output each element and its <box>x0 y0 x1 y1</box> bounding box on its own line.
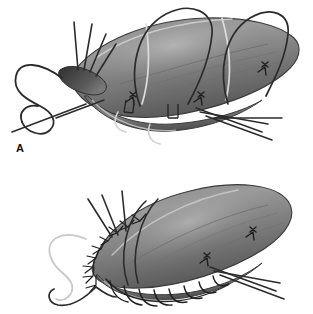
loose-suture-loop-b <box>49 235 86 300</box>
panel-b-illustration <box>0 157 313 314</box>
tissue-body-a <box>71 8 299 117</box>
suture-tails-lower-b <box>210 267 284 299</box>
suture-needle-thread-a <box>12 100 104 132</box>
panel-b: B <box>0 157 313 314</box>
figure-root: A <box>0 0 313 314</box>
panel-a-illustration <box>0 0 313 157</box>
suture-thread-tail-b <box>49 287 116 305</box>
panel-a: A <box>0 0 313 157</box>
loose-suture-loop-a <box>15 65 62 134</box>
panel-label-a: A <box>16 143 24 154</box>
